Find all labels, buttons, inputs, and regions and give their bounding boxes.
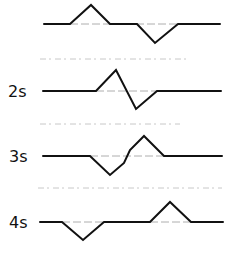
row-label-2s: 2s xyxy=(8,84,27,100)
waveforms xyxy=(40,5,223,240)
baselines xyxy=(62,24,191,222)
row-label-3s: 3s xyxy=(9,149,28,165)
row-label-4s: 4s xyxy=(9,215,28,231)
waveform-3 xyxy=(43,136,222,175)
waveform-4 xyxy=(40,202,223,240)
waveform-diagram xyxy=(0,0,229,267)
waveform-2 xyxy=(43,70,221,109)
waveform-1 xyxy=(44,5,220,43)
row-separators xyxy=(38,59,222,188)
